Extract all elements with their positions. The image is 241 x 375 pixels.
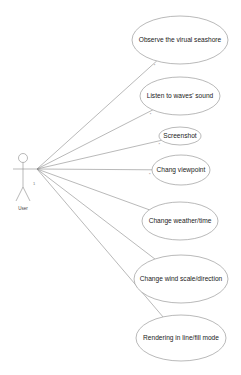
association-line xyxy=(37,61,157,169)
use-case-label: Screenshot xyxy=(163,132,197,139)
association-line xyxy=(37,140,162,169)
use-case-label: Change weather/time xyxy=(149,217,212,225)
use-case-diagram: ******* Observe the virual seashoreListe… xyxy=(0,0,241,375)
use-case: Screenshot xyxy=(159,127,201,145)
actor-right-leg xyxy=(23,187,30,201)
multiplicity-label: * xyxy=(159,142,161,147)
association-line xyxy=(37,169,149,210)
use-case: Observe the virual seashore xyxy=(132,16,228,64)
association-line xyxy=(37,169,152,170)
association-line xyxy=(37,110,153,169)
multiplicity-label: * xyxy=(150,112,152,117)
use-case-label: Observe the virual seashore xyxy=(139,36,222,43)
actor-user: User 1 xyxy=(13,154,37,212)
use-cases: Observe the virual seashoreListen to wav… xyxy=(132,16,228,361)
association-line xyxy=(37,169,155,259)
use-case: Change weather/time xyxy=(142,202,218,240)
multiplicity-label: * xyxy=(154,63,156,68)
use-case-label: Change wind scale/direction xyxy=(140,275,223,283)
multiplicity-label: * xyxy=(149,172,151,177)
association-line xyxy=(37,169,163,317)
use-case: Rendering in line/fill mode xyxy=(136,315,226,361)
use-case-label: Listen to waves' sound xyxy=(147,92,214,99)
use-case: Change wind scale/direction xyxy=(134,255,228,303)
use-case-label: Chang viewpoint xyxy=(157,166,206,174)
actor-label: User xyxy=(18,206,28,211)
actor-multiplicity: 1 xyxy=(33,181,36,186)
actor-head xyxy=(19,154,28,163)
actor-left-leg xyxy=(16,187,23,201)
use-case-label: Rendering in line/fill mode xyxy=(143,334,219,342)
use-case: Chang viewpoint xyxy=(152,155,210,185)
use-case: Listen to waves' sound xyxy=(140,77,220,115)
